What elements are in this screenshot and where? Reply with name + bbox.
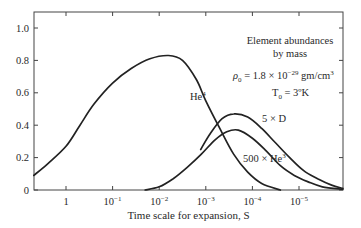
annotation-line1: Element abundances [247,35,334,46]
y-tick-label: 0.2 [16,152,29,163]
y-tick-label: 0.8 [16,55,29,66]
series-label-he4: He4 [190,90,206,102]
annotation-line2: by mass [273,48,307,59]
x-tick-label: 10−1 [104,195,122,207]
y-tick-label: 0 [24,185,29,196]
temperature-annotation: T0 = 3ºK [272,87,310,101]
annotation-block: Element abundances by mass ρ0 = 1.8 × 10… [232,35,334,101]
x-tick-label: 10−2 [150,195,168,207]
x-tick-label: 10−3 [197,195,215,207]
x-axis-title: Time scale for expansion, S [127,209,249,221]
x-tick-label: 10−5 [290,195,308,207]
x-tick-label: 1 [63,196,68,207]
series-label-he3: 500 × He3 [243,152,286,164]
y-tick-label: 0.4 [16,120,30,131]
y-tick-label: 1.0 [16,23,29,34]
y-tick-label: 0.6 [16,87,29,98]
curve-deuterium [201,114,343,189]
series-label-deuterium: 5 × D [262,113,286,124]
density-annotation: ρ0 = 1.8 × 10−29 gm/cm3 [232,69,334,84]
abundance-chart: 00.20.40.60.81.0 110−110−210−310−410−5 T… [0,0,361,228]
x-tick-label: 10−4 [243,195,261,207]
